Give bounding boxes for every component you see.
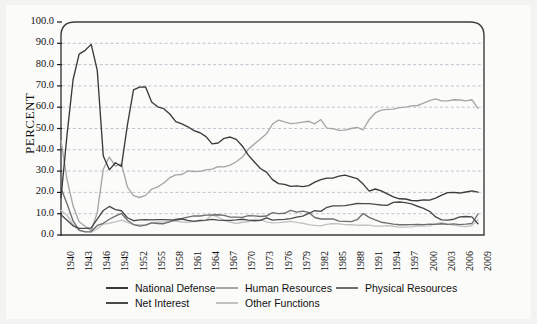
legend-label: Net Interest <box>135 297 189 309</box>
legend-label: Other Functions <box>245 297 320 309</box>
gridlines <box>62 43 483 213</box>
data-series-group <box>61 44 478 232</box>
chart-card: PERCENT 100.090.080.070.060.050.040.030.… <box>6 5 531 319</box>
series-line-human-resources <box>61 99 478 231</box>
legend-swatch <box>216 302 238 304</box>
series-line-national-defense <box>61 44 478 200</box>
legend-swatch <box>216 287 238 289</box>
legend-swatch <box>336 287 358 289</box>
chart-figure: PERCENT 100.090.080.070.060.050.040.030.… <box>0 0 537 324</box>
legend-label: Physical Resources <box>365 282 457 294</box>
plot-area <box>6 5 531 319</box>
series-line-physical-resources <box>61 188 478 232</box>
legend-label: Human Resources <box>245 282 332 294</box>
legend-swatch <box>106 302 128 304</box>
legend-label: National Defense <box>135 282 216 294</box>
legend-swatch <box>106 287 128 289</box>
